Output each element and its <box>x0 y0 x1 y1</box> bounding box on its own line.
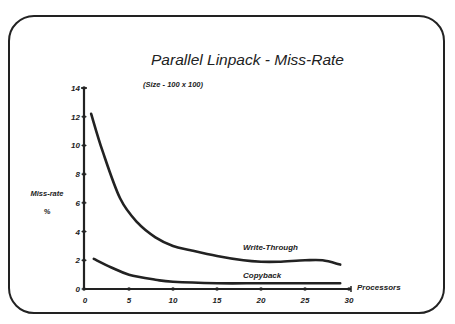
x-tick-label: 5 <box>127 296 132 305</box>
copyback-label: Copyback <box>243 271 282 280</box>
y-tick-label: 10 <box>71 141 80 150</box>
y-tick-label: 12 <box>71 113 80 122</box>
y-tick-label: 6 <box>76 199 81 208</box>
series-lines <box>91 114 340 284</box>
x-tick-label: 25 <box>300 296 310 305</box>
x-tick-label: 30 <box>345 296 354 305</box>
y-tick-label: 14 <box>71 84 80 93</box>
write-through-line <box>91 114 340 265</box>
copyback-line <box>94 259 340 284</box>
x-tick-label: 15 <box>213 296 222 305</box>
x-axis-label: Processors <box>357 283 401 292</box>
y-tick-label: 4 <box>75 228 81 237</box>
x-tick-label: 10 <box>169 296 178 305</box>
y-tick-label: 8 <box>76 170 81 179</box>
plot-area: 02468101214051015202530Processors Write-… <box>0 0 455 324</box>
x-tick-label: 0 <box>83 296 88 305</box>
y-tick-label: 0 <box>76 285 81 294</box>
write-through-label: Write-Through <box>243 243 298 252</box>
x-tick-label: 20 <box>256 296 266 305</box>
y-tick-label: 2 <box>75 256 81 265</box>
